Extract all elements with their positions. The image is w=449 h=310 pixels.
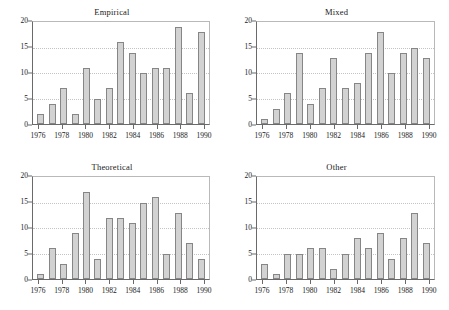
x-tick-label: 1990 [197, 286, 212, 295]
y-tick-label: 15 [21, 43, 29, 51]
x-tick-label: 1990 [422, 131, 437, 140]
bar [423, 243, 430, 279]
x-tick-label: 1978 [278, 286, 293, 295]
x-tick-mark [157, 125, 158, 129]
bar [284, 254, 291, 280]
x-tick-label: 1984 [350, 131, 365, 140]
bar [307, 104, 314, 124]
bar [198, 259, 205, 279]
bar [388, 259, 395, 279]
chart-title-theoretical: Theoretical [0, 162, 224, 172]
bar [106, 88, 113, 124]
x-tick-label: 1988 [173, 286, 188, 295]
bar [342, 254, 349, 280]
x-tick-label: 1984 [350, 286, 365, 295]
bar [117, 42, 124, 124]
x-tick-mark [204, 125, 205, 129]
y-axis-theoretical: 05101520 [0, 176, 32, 280]
x-tick-mark [180, 125, 181, 129]
x-tick-label: 1982 [326, 131, 341, 140]
x-tick-label: 1984 [125, 286, 140, 295]
x-tick-mark [286, 125, 287, 129]
bar [37, 274, 44, 279]
x-tick-label: 1982 [326, 286, 341, 295]
x-tick-mark [38, 280, 39, 284]
bar [72, 114, 79, 124]
x-tick-mark [133, 125, 134, 129]
x-tick-label: 1988 [398, 131, 413, 140]
x-tick-mark [62, 280, 63, 284]
bar [60, 88, 67, 124]
bar [49, 104, 56, 124]
bar [94, 99, 101, 125]
bar [152, 68, 159, 124]
x-tick-label: 1986 [149, 286, 164, 295]
chart-panel-empirical: Empirical0510152019761978198019821984198… [0, 0, 224, 155]
bar [330, 58, 337, 124]
bar [273, 274, 280, 279]
chart-panel-other: Other05101520197619781980198219841986198… [224, 155, 449, 310]
plot-area-mixed [256, 21, 435, 125]
x-tick-mark [405, 125, 406, 129]
plot-area-theoretical [32, 176, 210, 280]
x-tick-mark [357, 125, 358, 129]
y-tick-label: 15 [245, 198, 253, 206]
bar [319, 88, 326, 124]
bar [117, 218, 124, 279]
x-tick-mark [310, 280, 311, 284]
bar [342, 88, 349, 124]
bar [377, 32, 384, 124]
bar [163, 254, 170, 280]
bar [129, 223, 136, 279]
bar [106, 218, 113, 279]
bar [186, 93, 193, 124]
x-tick-label: 1982 [102, 131, 117, 140]
x-tick-label: 1976 [30, 131, 45, 140]
bar [354, 238, 361, 279]
y-axis-mixed: 05101520 [224, 21, 256, 125]
bar [83, 68, 90, 124]
bar-series [257, 177, 434, 279]
x-tick-mark [109, 280, 110, 284]
bar [400, 53, 407, 124]
x-axis-theoretical: 19761978198019821984198619881990 [32, 280, 210, 310]
x-tick-mark [262, 125, 263, 129]
x-tick-mark [262, 280, 263, 284]
x-tick-label: 1976 [254, 131, 269, 140]
x-tick-mark [157, 280, 158, 284]
bar-series [33, 22, 209, 124]
x-tick-label: 1990 [422, 286, 437, 295]
y-tick-label: 20 [21, 172, 29, 180]
x-tick-mark [405, 280, 406, 284]
x-tick-mark [334, 125, 335, 129]
y-tick-label: 15 [245, 43, 253, 51]
x-tick-mark [180, 280, 181, 284]
bar [354, 83, 361, 124]
chart-panel-grid: Empirical0510152019761978198019821984198… [0, 0, 449, 310]
x-tick-mark [38, 125, 39, 129]
x-tick-mark [286, 280, 287, 284]
y-tick-label: 20 [21, 17, 29, 25]
bar [60, 264, 67, 279]
y-axis-empirical: 05101520 [0, 21, 32, 125]
bar [261, 264, 268, 279]
bar [152, 197, 159, 279]
x-tick-mark [429, 280, 430, 284]
x-tick-mark [204, 280, 205, 284]
x-tick-mark [381, 280, 382, 284]
bar [400, 238, 407, 279]
chart-title-other: Other [224, 162, 449, 172]
x-tick-label: 1978 [54, 131, 69, 140]
x-tick-label: 1984 [125, 131, 140, 140]
chart-title-empirical: Empirical [0, 7, 224, 17]
bar [365, 248, 372, 279]
x-tick-label: 1980 [78, 286, 93, 295]
x-tick-mark [429, 125, 430, 129]
bar [296, 53, 303, 124]
x-tick-mark [133, 280, 134, 284]
y-tick-label: 10 [21, 69, 29, 77]
bar [330, 269, 337, 279]
bar [140, 203, 147, 280]
x-tick-label: 1982 [102, 286, 117, 295]
y-tick-label: 10 [21, 224, 29, 232]
